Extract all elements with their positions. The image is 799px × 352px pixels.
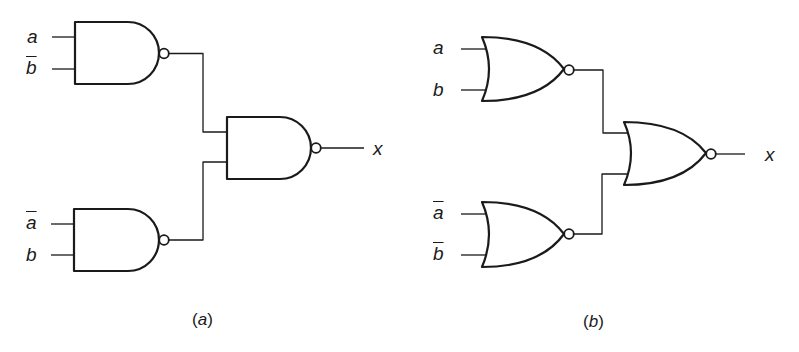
input-label-b: b bbox=[26, 245, 37, 264]
input-label-not-a: a bbox=[433, 203, 444, 222]
circuit-canvas bbox=[0, 0, 799, 352]
wire-connections-b bbox=[574, 70, 628, 234]
nor-gate-1 bbox=[461, 37, 574, 101]
output-label-x: x bbox=[373, 139, 383, 158]
wire-connections-a bbox=[169, 54, 227, 241]
input-label-not-b: b bbox=[26, 58, 37, 77]
nor-gate-3 bbox=[624, 122, 745, 185]
nand-gate-2 bbox=[51, 209, 169, 271]
nor-gate-2 bbox=[461, 202, 574, 267]
output-label-x: x bbox=[765, 145, 775, 164]
input-label-b: b bbox=[433, 80, 444, 99]
caption-b: (b) bbox=[583, 313, 604, 330]
input-label-a: a bbox=[27, 27, 38, 46]
nand-gate-3 bbox=[227, 117, 364, 179]
nand-gate-1 bbox=[52, 22, 169, 84]
input-label-a: a bbox=[433, 38, 444, 57]
input-label-not-a: a bbox=[26, 213, 37, 232]
caption-a: (a) bbox=[192, 311, 213, 328]
input-label-not-b: b bbox=[433, 244, 444, 263]
